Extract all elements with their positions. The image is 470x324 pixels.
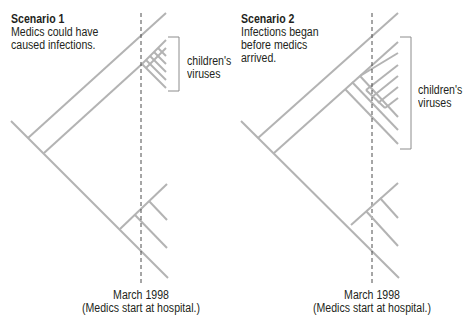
- scenario2-cluster-bracket: [400, 37, 411, 149]
- scenario2-timeline-sublabel: (Medics start at hospital.): [302, 302, 443, 315]
- scenario1-cluster-label: viruses: [187, 68, 220, 81]
- scenario1-timeline-sublabel: (Medics start at hospital.): [71, 302, 212, 315]
- scenario2-description-line: arrived.: [241, 52, 276, 65]
- scenario1-cluster-bracket: [168, 37, 179, 91]
- scenario1-description-line: caused infections.: [11, 39, 96, 52]
- scenario2-cluster-label: viruses: [418, 97, 451, 110]
- scenario1-tree: [11, 13, 168, 278]
